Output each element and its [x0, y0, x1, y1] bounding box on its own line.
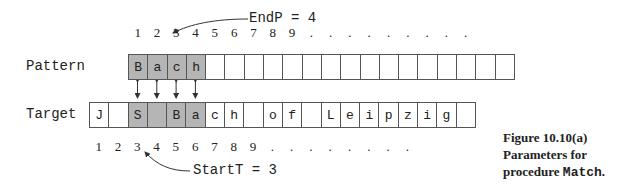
pattern-cell: [206, 55, 225, 79]
index-number: .: [340, 25, 359, 41]
target-cell: c: [206, 103, 225, 127]
index-number: .: [398, 139, 417, 155]
pattern-label: Pattern: [26, 58, 85, 74]
index-number: 7: [244, 25, 263, 41]
target-cell: i: [418, 103, 437, 127]
index-number: 1: [89, 139, 108, 155]
pattern-cell: [225, 55, 244, 79]
index-number: 4: [147, 139, 166, 155]
index-number: 2: [108, 139, 127, 155]
pattern-cell: [399, 55, 418, 79]
target-cell: i: [360, 103, 379, 127]
pattern-cell: [361, 55, 380, 79]
caption-code-match: Match: [563, 165, 602, 180]
target-cell: e: [341, 103, 360, 127]
index-number: 8: [263, 25, 282, 41]
target-cell: h: [225, 103, 244, 127]
target-cell: [302, 103, 321, 127]
index-number: .: [379, 25, 398, 41]
target-cell: a: [186, 103, 205, 127]
index-number: .: [321, 139, 340, 155]
index-number: .: [263, 139, 282, 155]
index-number: 8: [224, 139, 243, 155]
index-number: .: [359, 139, 378, 155]
index-number: 9: [243, 139, 262, 155]
index-number: .: [360, 25, 379, 41]
index-number: .: [301, 139, 320, 155]
index-number: .: [437, 25, 456, 41]
pattern-cell: [283, 55, 302, 79]
pattern-cell: [496, 55, 515, 79]
endp-label: EndP = 4: [249, 10, 316, 26]
pattern-cell: [418, 55, 437, 79]
pattern-cell: B: [129, 55, 148, 79]
index-number: 4: [186, 25, 205, 41]
target-cell: [244, 103, 263, 127]
pattern-cell: [380, 55, 399, 79]
pattern-array: Bach: [128, 54, 515, 80]
target-index-row: 123456789........: [89, 139, 417, 155]
pattern-cell: c: [168, 55, 187, 79]
caption-title: Figure 10.10(a): [503, 129, 605, 146]
target-cell: S: [129, 103, 148, 127]
index-number: 1: [128, 25, 147, 41]
target-cell: [457, 103, 476, 127]
index-number: .: [340, 139, 359, 155]
pattern-cell: [303, 55, 322, 79]
index-number: 9: [282, 25, 301, 41]
match-arrows: [138, 82, 196, 98]
target-label: Target: [26, 106, 76, 122]
index-number: .: [302, 25, 321, 41]
target-cell: [148, 103, 167, 127]
pattern-index-row: 123456789.........: [128, 25, 475, 41]
index-number: .: [282, 139, 301, 155]
index-number: 5: [166, 139, 185, 155]
index-number: 3: [128, 139, 147, 155]
index-number: 7: [205, 139, 224, 155]
index-number: 3: [167, 25, 186, 41]
caption-line2: Parameters for: [503, 146, 605, 163]
pattern-cell: [476, 55, 495, 79]
pattern-cell: [438, 55, 457, 79]
pattern-cell: [341, 55, 360, 79]
index-number: 2: [147, 25, 166, 41]
target-array: JSBachofLeipzig: [89, 102, 476, 128]
index-number: .: [378, 139, 397, 155]
target-cell: f: [283, 103, 302, 127]
caption-line3: procedure Match.: [503, 163, 605, 181]
pattern-cell: [457, 55, 476, 79]
target-cell: z: [399, 103, 418, 127]
pattern-cell: a: [148, 55, 167, 79]
index-number: .: [456, 25, 475, 41]
index-number: .: [417, 25, 436, 41]
target-cell: g: [437, 103, 456, 127]
index-number: 6: [224, 25, 243, 41]
pattern-cell: h: [187, 55, 206, 79]
pattern-cell: [245, 55, 264, 79]
pattern-cell: [322, 55, 341, 79]
target-cell: L: [322, 103, 341, 127]
target-cell: J: [90, 103, 109, 127]
target-cell: o: [264, 103, 283, 127]
index-number: .: [398, 25, 417, 41]
figure-caption: Figure 10.10(a) Parameters for procedure…: [503, 129, 605, 181]
startt-label: StartT = 3: [193, 162, 277, 178]
target-cell: p: [379, 103, 398, 127]
index-number: 5: [205, 25, 224, 41]
index-number: .: [321, 25, 340, 41]
target-cell: [109, 103, 128, 127]
index-number: 6: [185, 139, 204, 155]
target-cell: B: [167, 103, 186, 127]
pattern-cell: [264, 55, 283, 79]
